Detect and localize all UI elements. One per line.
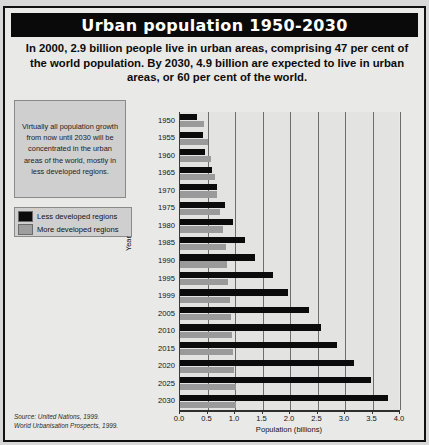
- bar-less-developed: [180, 167, 212, 173]
- x-axis-tick-label: 3.0: [339, 414, 350, 423]
- y-axis-tick-label: 1995: [158, 274, 175, 283]
- gridline: [373, 112, 374, 410]
- y-axis-tick-label: 1970: [158, 186, 175, 195]
- y-axis-tick-labels: 1950195519601965197019751980198519901995…: [139, 112, 177, 410]
- y-axis-tick-label: 2020: [158, 361, 175, 370]
- y-axis-tick-label: 1955: [158, 133, 175, 142]
- y-axis-tick-label: 2030: [158, 396, 175, 405]
- bar-more-developed: [180, 349, 233, 355]
- bar-more-developed: [180, 139, 208, 145]
- bar-less-developed: [180, 237, 245, 243]
- bar-less-developed: [180, 395, 388, 401]
- y-axis-tick-label: 1965: [158, 168, 175, 177]
- x-axis-tick-label: 1.0: [229, 414, 240, 423]
- bar-more-developed: [180, 279, 228, 285]
- bar-less-developed: [180, 132, 203, 138]
- bar-less-developed: [180, 184, 217, 190]
- source-line-2: World Urbanisation Prospects, 1999.: [14, 422, 174, 431]
- bar-less-developed: [180, 324, 321, 330]
- bar-less-developed: [180, 272, 273, 278]
- bar-more-developed: [180, 226, 223, 232]
- x-axis-tick-label: 3.5: [366, 414, 377, 423]
- infographic-panel: Urban population 1950-2030 In 2000, 2.9 …: [3, 6, 426, 442]
- bar-more-developed: [180, 367, 234, 373]
- y-axis-tick-label: 1985: [158, 238, 175, 247]
- bar-less-developed: [180, 377, 371, 383]
- bar-less-developed: [180, 289, 288, 295]
- bar-more-developed: [180, 209, 220, 215]
- bar-more-developed: [180, 244, 226, 250]
- plot-area: [179, 112, 399, 410]
- x-axis-tick-label: 1.5: [256, 414, 267, 423]
- bar-less-developed: [180, 342, 337, 348]
- bar-less-developed: [180, 149, 205, 155]
- y-axis-tick-label: 1975: [158, 203, 175, 212]
- x-axis-tick-label: 2.0: [284, 414, 295, 423]
- x-axis-tick-label: 2.5: [311, 414, 322, 423]
- y-axis-tick-label: 2005: [158, 309, 175, 318]
- bar-more-developed: [180, 191, 217, 197]
- y-axis-tick-label: 1950: [158, 116, 175, 125]
- bar-more-developed: [180, 156, 211, 162]
- y-axis-tick-label: 2015: [158, 344, 175, 353]
- bar-less-developed: [180, 307, 309, 313]
- bar-more-developed: [180, 332, 232, 338]
- y-axis-title: Year: [124, 236, 133, 251]
- bar-more-developed: [180, 384, 236, 390]
- bar-more-developed: [180, 297, 230, 303]
- bar-more-developed: [180, 121, 204, 127]
- y-axis-tick-label: 2025: [158, 379, 175, 388]
- y-axis-tick-label: 1999: [158, 291, 175, 300]
- x-axis-tick-label: 0.0: [174, 414, 185, 423]
- gridline: [400, 112, 401, 410]
- y-axis-tick-label: 1980: [158, 221, 175, 230]
- x-axis-tick-label: 4.0: [394, 414, 405, 423]
- bar-more-developed: [180, 261, 227, 267]
- y-axis-tick-label: 1960: [158, 151, 175, 160]
- x-axis-tick-label: 0.5: [201, 414, 212, 423]
- x-axis-title: Population (billions): [179, 425, 399, 434]
- y-axis-tick-label: 1990: [158, 256, 175, 265]
- bar-less-developed: [180, 254, 255, 260]
- bar-more-developed: [180, 402, 236, 408]
- bar-less-developed: [180, 219, 233, 225]
- source-note: Source: United Nations, 1999. World Urba…: [14, 413, 174, 430]
- bar-more-developed: [180, 314, 231, 320]
- y-axis-tick-label: 2010: [158, 326, 175, 335]
- source-line-1: Source: United Nations, 1999.: [14, 413, 174, 422]
- bar-less-developed: [180, 202, 225, 208]
- bar-less-developed: [180, 360, 354, 366]
- bar-more-developed: [180, 174, 215, 180]
- chart-plot-area-wrapper: Year 19501955196019651970197519801985199…: [5, 8, 424, 440]
- bar-less-developed: [180, 114, 197, 120]
